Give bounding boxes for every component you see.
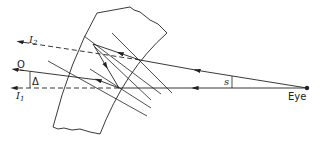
image-rays [22,43,140,88]
surface-normals [48,33,172,116]
bottom-break-edge [53,127,100,134]
ray-image-I2 [28,43,140,60]
label-eye: Eye [288,91,306,102]
label-s: s [224,76,229,87]
outer-surface [53,13,97,127]
ray-internal-BA [118,53,140,61]
rays [15,44,307,88]
ray-eye-inclined [195,70,307,88]
label-delta: Δ [32,76,39,87]
top-break-edge [97,7,167,33]
label-I2: I2 [28,34,38,47]
optics-diagram: I2 I1 O Δ s Eye [0,0,322,142]
label-I1: I1 [15,90,24,103]
eye-point-icon [305,86,309,90]
label-O: O [17,59,25,70]
